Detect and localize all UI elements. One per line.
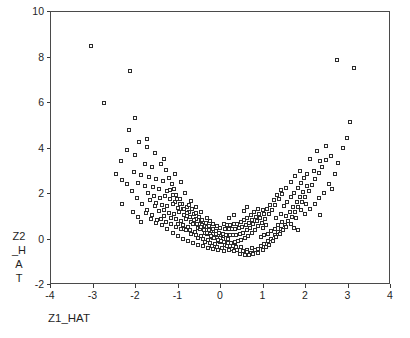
y-axis-label: Z2_HAT — [2, 229, 36, 285]
x-tick-label: -2 — [123, 290, 147, 301]
scatter-point — [270, 208, 274, 212]
x-axis-label: Z1_HAT — [48, 312, 90, 324]
scatter-point — [167, 211, 171, 215]
scatter-point — [279, 212, 283, 216]
scatter-point — [171, 193, 175, 197]
y-axis-label-line: A — [2, 257, 36, 271]
scatter-point — [298, 169, 302, 173]
scatter-point — [125, 182, 129, 186]
scatter-point — [172, 187, 176, 191]
scatter-point — [284, 214, 288, 218]
scatter-point — [170, 182, 174, 186]
scatter-point — [348, 120, 352, 124]
scatter-point — [175, 197, 179, 201]
scatter-point — [317, 196, 321, 200]
scatter-point — [259, 235, 263, 239]
scatter-point — [120, 202, 124, 206]
scatter-point — [265, 207, 269, 211]
scatter-point — [173, 172, 177, 176]
scatter-point — [149, 217, 153, 221]
scatter-point — [232, 213, 236, 217]
scatter-point — [327, 182, 331, 186]
scatter-point — [211, 247, 215, 251]
scatter-point — [189, 199, 193, 203]
scatter-point — [216, 238, 220, 242]
scatter-point — [285, 200, 289, 204]
scatter-point — [324, 144, 328, 148]
scatter-point — [238, 252, 242, 256]
scatter-point — [298, 195, 302, 199]
scatter-point — [255, 219, 259, 223]
y-tick-label: 6 — [20, 97, 44, 107]
scatter-point — [194, 211, 198, 215]
scatter-point — [264, 223, 268, 227]
scatter-point — [172, 212, 176, 216]
scatter-point — [318, 213, 322, 217]
scatter-point — [308, 157, 312, 161]
scatter-point — [261, 226, 265, 230]
scatter-point — [163, 194, 167, 198]
scatter-point — [148, 198, 152, 202]
scatter-point — [296, 186, 300, 190]
scatter-point — [320, 165, 324, 169]
scatter-point — [303, 195, 307, 199]
scatter-point — [305, 172, 309, 176]
scatter-point — [299, 181, 303, 185]
scatter-point — [159, 217, 163, 221]
scatter-point — [216, 248, 220, 252]
scatter-point — [227, 216, 231, 220]
scatter-point — [160, 203, 164, 207]
scatter-point — [130, 189, 134, 193]
scatter-point — [205, 216, 209, 220]
scatter-point — [261, 208, 265, 212]
scatter-point — [165, 227, 169, 231]
y-axis-label-line: Z2 — [2, 229, 36, 243]
scatter-point — [274, 216, 278, 220]
scatter-point — [280, 220, 284, 224]
scatter-point — [167, 176, 171, 180]
scatter-point — [224, 233, 228, 237]
scatter-point — [211, 222, 215, 226]
scatter-point — [243, 236, 247, 240]
x-tick-label: -3 — [81, 290, 105, 301]
scatter-point — [157, 187, 161, 191]
scatter-point — [185, 211, 189, 215]
scatter-point — [310, 183, 314, 187]
scatter-point — [133, 153, 137, 157]
scatter-point — [267, 243, 271, 247]
scatter-point — [162, 214, 166, 218]
scatter-point — [335, 58, 339, 62]
scatter-point — [137, 140, 141, 144]
scatter-point — [257, 212, 261, 216]
scatter-point — [274, 235, 278, 239]
y-tick-label: 2 — [20, 188, 44, 198]
scatter-point — [295, 200, 299, 204]
scatter-point — [151, 185, 155, 189]
scatter-point — [186, 239, 190, 243]
scatter-point — [150, 165, 154, 169]
scatter-point — [139, 173, 143, 177]
x-tick-mark — [220, 284, 221, 288]
scatter-point — [206, 246, 210, 250]
x-tick-mark — [93, 284, 94, 288]
x-tick-mark — [390, 284, 391, 288]
scatter-point — [266, 232, 270, 236]
scatter-point — [127, 128, 131, 132]
scatter-point — [181, 237, 185, 241]
x-tick-mark — [305, 284, 306, 288]
scatter-point — [345, 136, 349, 140]
scatter-point — [159, 162, 163, 166]
x-tick-label: -1 — [166, 290, 190, 301]
scatter-point — [128, 69, 132, 73]
scatter-point — [308, 207, 312, 211]
plot-frame — [50, 11, 390, 284]
x-tick-mark — [178, 284, 179, 288]
x-tick-label: 4 — [378, 290, 402, 301]
scatter-point — [251, 252, 255, 256]
scatter-point — [336, 161, 340, 165]
scatter-point — [304, 202, 308, 206]
scatter-point — [292, 191, 296, 195]
scatter-point — [278, 232, 282, 236]
scatter-point — [152, 194, 156, 198]
scatter-point — [289, 195, 293, 199]
